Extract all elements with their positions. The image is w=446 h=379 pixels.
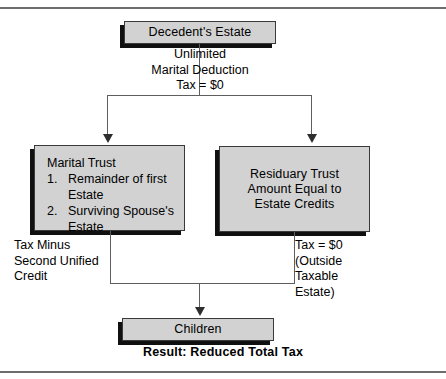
- annotation-tax-minus-second-unified-credit: Tax Minus Second Unified Credit: [14, 238, 144, 285]
- marital-trust-item-text: Surviving Spouse's Estate: [68, 204, 174, 234]
- node-decedents-estate-label: Decedent's Estate: [149, 25, 252, 40]
- connector-split-bar: [107, 95, 312, 96]
- connector-branch-right: [311, 95, 312, 136]
- top-divider-rule: [0, 7, 446, 9]
- marital-trust-item: 1. Remainder of first Estate: [47, 171, 184, 203]
- marital-trust-item-number: 1.: [47, 171, 64, 187]
- arrowhead-to-residuary-trust: [307, 134, 317, 143]
- marital-trust-item-number: 2.: [47, 203, 64, 219]
- diagram-canvas: Decedent's Estate Unlimited Marital Dedu…: [0, 0, 446, 379]
- bottom-divider-rule: [0, 371, 446, 373]
- node-children-label: Children: [174, 322, 221, 337]
- node-residuary-trust-label: Residuary Trust Amount Equal to Estate C…: [248, 167, 342, 212]
- connector-children-stem: [199, 283, 200, 309]
- annotation-tax-zero-outside-taxable-estate: Tax = $0 (Outside Taxable Estate): [295, 238, 415, 300]
- marital-trust-item: 2. Surviving Spouse's Estate: [47, 203, 184, 235]
- node-children: Children: [122, 318, 274, 341]
- result-caption: Result: Reduced Total Tax: [0, 345, 446, 359]
- node-marital-trust: Marital Trust 1. Remainder of first Esta…: [34, 145, 185, 231]
- arrowhead-to-children: [195, 307, 205, 316]
- marital-trust-item-list: 1. Remainder of first Estate 2. Survivin…: [47, 171, 184, 235]
- marital-trust-item-text: Remainder of first Estate: [68, 172, 167, 202]
- connector-branch-left: [107, 95, 108, 136]
- node-residuary-trust: Residuary Trust Amount Equal to Estate C…: [219, 146, 370, 232]
- arrowhead-to-marital-trust: [103, 134, 113, 143]
- node-marital-trust-title: Marital Trust: [47, 155, 184, 171]
- node-decedents-estate: Decedent's Estate: [124, 21, 276, 44]
- annotation-unlimited-marital-deduction: Unlimited Marital Deduction Tax = $0: [106, 47, 294, 94]
